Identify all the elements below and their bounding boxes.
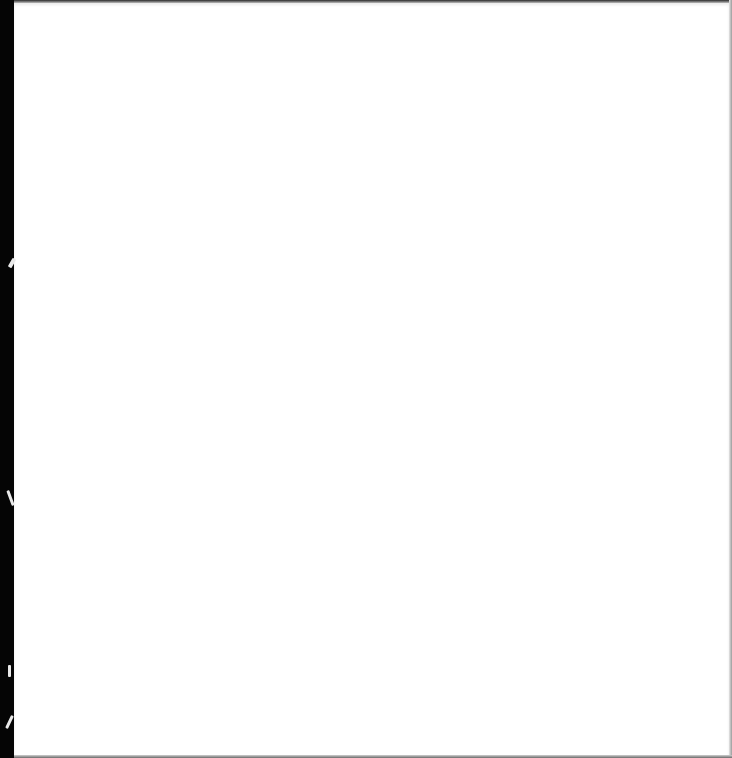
scan-left-edge [0,0,14,758]
paper-fiber [8,665,11,677]
scanned-document [0,0,732,758]
blank-page [14,3,729,755]
